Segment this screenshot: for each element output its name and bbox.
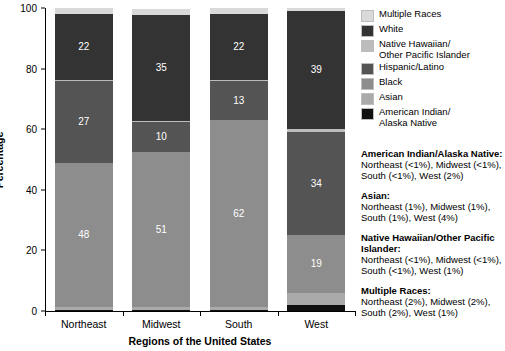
x-tick-label: South (225, 318, 252, 330)
footnote-body: Northeast (1%), Midwest (1%), South (1%)… (361, 201, 505, 223)
bar-segment[interactable]: 48 (55, 163, 113, 307)
plot-area: 482722511035621322193439 (45, 8, 355, 311)
bar-segment-value: 10 (156, 132, 167, 142)
bar-segment[interactable]: 22 (210, 14, 268, 80)
bar-segment[interactable]: 22 (55, 14, 113, 80)
bar-segment-value: 13 (233, 96, 244, 106)
legend-swatch-icon (361, 108, 374, 120)
chart-figure: Percentage 020406080100 4827225110356213… (0, 0, 505, 351)
bar-segment[interactable] (55, 80, 113, 81)
footnotes-block: American Indian/Alaska Native:Northeast … (361, 148, 505, 327)
footnote-block: Multiple Races:Northeast (2%), Midwest (… (361, 285, 505, 318)
legend-label: Black (379, 77, 402, 88)
bar-segment-value: 39 (311, 65, 322, 75)
bar-segment[interactable]: 39 (287, 11, 345, 129)
bar-west[interactable]: 193439 (287, 8, 345, 311)
bar-segment[interactable] (210, 307, 268, 310)
bar-segment[interactable] (287, 129, 345, 132)
y-axis-title: Percentage (0, 132, 5, 189)
bar-segment-value: 22 (233, 42, 244, 52)
bar-northeast[interactable]: 482722 (55, 8, 113, 311)
bar-segment[interactable] (55, 307, 113, 310)
y-tick-label: 100 (0, 3, 43, 14)
bar-segment[interactable] (132, 310, 190, 311)
x-tick-label: Northeast (61, 318, 107, 330)
footnote-title: Native Hawaiian/Other Pacific Islander: (361, 232, 505, 254)
bar-segment[interactable] (132, 121, 190, 122)
legend: Multiple RacesWhiteNative Hawaiian/Other… (361, 9, 505, 130)
legend-item[interactable]: Asian (361, 92, 505, 105)
y-tick-label: 60 (0, 124, 43, 135)
legend-item[interactable]: Multiple Races (361, 9, 505, 22)
y-tick-label: 0 (0, 306, 43, 317)
bar-segment[interactable]: 19 (287, 235, 345, 293)
bar-segment[interactable]: 51 (132, 152, 190, 307)
bar-segment[interactable]: 34 (287, 132, 345, 235)
legend-item[interactable]: Native Hawaiian/Other Pacific Islander (361, 39, 505, 60)
x-tick-mark (200, 311, 201, 316)
legend-swatch-icon (361, 63, 374, 75)
bar-segment[interactable]: 10 (132, 122, 190, 152)
footnote-body: Northeast (<1%), Midwest (<1%), South (<… (361, 254, 505, 276)
bar-segment[interactable]: 62 (210, 120, 268, 306)
bar-segment[interactable]: 35 (132, 15, 190, 121)
legend-label: Asian (379, 92, 403, 103)
bar-segment[interactable] (55, 8, 113, 14)
bar-segment-value: 22 (78, 42, 89, 52)
footnote-body: Northeast (<1%), Midwest (<1%), South (<… (361, 159, 505, 181)
legend-item[interactable]: Hispanic/Latino (361, 62, 505, 75)
y-tick-label: 80 (0, 63, 43, 74)
x-tick-label: Midwest (142, 318, 181, 330)
footnote-block: Asian:Northeast (1%), Midwest (1%), Sout… (361, 190, 505, 223)
bar-segment[interactable]: 13 (210, 81, 268, 120)
y-tick-label: 20 (0, 245, 43, 256)
x-tick-mark (45, 311, 46, 316)
x-tick-mark (278, 311, 279, 316)
legend-label: White (379, 24, 403, 35)
legend-label: Native Hawaiian/Other Pacific Islander (379, 39, 470, 60)
bar-segment[interactable] (287, 305, 345, 311)
legend-swatch-icon (361, 25, 374, 37)
bar-segment-value: 48 (78, 230, 89, 240)
bar-midwest[interactable]: 511035 (132, 8, 190, 311)
bar-segment[interactable] (55, 310, 113, 311)
x-axis-title: Regions of the United States (129, 335, 272, 347)
bar-segment[interactable] (132, 307, 190, 310)
bar-south[interactable]: 621322 (210, 8, 268, 311)
legend-swatch-icon (361, 40, 374, 52)
legend-item[interactable]: Black (361, 77, 505, 90)
bar-segment-value: 35 (156, 63, 167, 73)
x-tick-mark (123, 311, 124, 316)
bar-segment-value: 27 (78, 117, 89, 127)
bar-segment[interactable] (287, 293, 345, 305)
bar-segment[interactable] (210, 8, 268, 14)
bar-segment-value: 62 (233, 209, 244, 219)
footnote-body: Northeast (2%), Midwest (2%), South (2%)… (361, 296, 505, 318)
bar-segment[interactable] (210, 310, 268, 311)
bar-segment[interactable]: 27 (55, 81, 113, 162)
footnote-title: Asian: (361, 190, 505, 201)
legend-label: Multiple Races (379, 9, 441, 20)
bar-segment[interactable] (132, 9, 190, 15)
x-tick-label: West (304, 318, 328, 330)
footnote-block: American Indian/Alaska Native:Northeast … (361, 148, 505, 181)
footnote-block: Native Hawaiian/Other Pacific Islander:N… (361, 232, 505, 276)
x-tick-mark (355, 311, 356, 316)
legend-swatch-icon (361, 93, 374, 105)
footnote-title: Multiple Races: (361, 285, 505, 296)
legend-label: Hispanic/Latino (379, 62, 444, 73)
legend-swatch-icon (361, 78, 374, 90)
bar-segment[interactable] (210, 80, 268, 81)
legend-label: American Indian/Alaska Native (379, 107, 450, 128)
footnote-title: American Indian/Alaska Native: (361, 148, 505, 159)
legend-item[interactable]: White (361, 24, 505, 37)
y-tick-label: 40 (0, 184, 43, 195)
bar-segment-value: 34 (311, 179, 322, 189)
legend-item[interactable]: American Indian/Alaska Native (361, 107, 505, 128)
bar-segment-value: 19 (311, 259, 322, 269)
legend-swatch-icon (361, 10, 374, 22)
bar-segment[interactable] (287, 8, 345, 11)
bar-segment-value: 51 (156, 225, 167, 235)
